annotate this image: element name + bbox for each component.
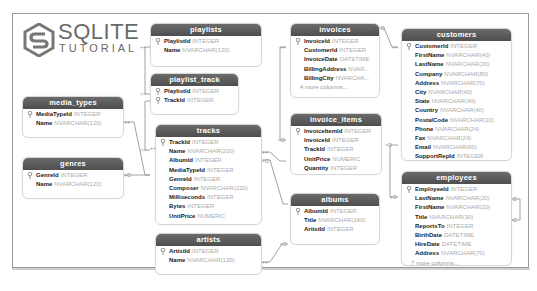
table-tracks[interactable]: tracks TrackIdINTEGER NameNVARCHAR(200) … xyxy=(155,124,262,225)
column-row: BillingAddressNVAR... xyxy=(297,65,375,74)
svg-text:<O: <O xyxy=(385,142,392,148)
svg-text:++: ++ xyxy=(262,149,268,155)
column-row: PlaylistIdINTEGER xyxy=(157,87,234,96)
column-row: CustomerIdINTEGER xyxy=(408,42,507,51)
svg-text:++: ++ xyxy=(392,44,398,50)
primary-key-icon xyxy=(160,248,166,255)
primary-key-icon xyxy=(160,139,166,146)
svg-text:+O: +O xyxy=(124,172,131,178)
column-row: TitleNVARCHAR(30) xyxy=(408,213,507,222)
column-row: PostalCodeNVARCHAR(10) xyxy=(408,116,507,125)
column-row: InvoiceIdINTEGER xyxy=(297,37,375,46)
primary-key-icon xyxy=(295,38,301,45)
column-row: BytesINTEGER xyxy=(162,202,257,211)
svg-text:<O: <O xyxy=(262,158,269,164)
column-row: LastNameNVARCHAR(20) xyxy=(408,194,507,203)
table-title: playlist_track xyxy=(151,74,238,86)
column-row: NameNVARCHAR(120) xyxy=(29,119,119,128)
column-row: NameNVARCHAR(120) xyxy=(29,180,119,189)
primary-key-icon xyxy=(406,186,412,193)
column-row: FirstNameNVARCHAR(40) xyxy=(408,51,507,60)
column-row: AlbumIdINTEGER xyxy=(162,156,257,165)
column-row: QuantityINTEGER xyxy=(297,164,377,173)
table-title: playlists xyxy=(151,24,261,36)
column-row: EmployeeIdINTEGER xyxy=(408,185,507,194)
primary-key-icon xyxy=(295,128,301,135)
more-columns-link[interactable]: 7 more columns... xyxy=(408,259,507,268)
svg-text:+O: +O xyxy=(390,194,397,200)
column-row: CountryNVARCHAR(40) xyxy=(408,106,507,115)
column-row: InvoiceDateDATETIME xyxy=(297,55,375,64)
svg-text:<O: <O xyxy=(278,137,285,143)
column-row: NameNVARCHAR(200) xyxy=(162,147,257,156)
column-row: AlbumIdINTEGER xyxy=(297,207,375,216)
svg-text:++: ++ xyxy=(140,44,146,50)
more-columns-link[interactable]: 4 more columns... xyxy=(297,83,375,92)
table-title: invoice_items xyxy=(291,114,381,126)
table-artists[interactable]: artists ArtistIdINTEGER NameNVARCHAR(120… xyxy=(155,233,262,275)
table-invoices[interactable]: invoices InvoiceIdINTEGER CustomerIdINTE… xyxy=(290,23,380,98)
column-row: BirthDateDATETIME xyxy=(408,231,507,240)
column-row: EmailNVARCHAR(60) xyxy=(408,143,507,152)
table-customers[interactable]: customers CustomerIdINTEGER FirstNameNVA… xyxy=(401,28,512,161)
table-title: invoices xyxy=(291,24,379,36)
column-row: AddressNVARCHAR(70) xyxy=(408,79,507,88)
table-title: customers xyxy=(402,29,511,41)
column-row: TrackIdINTEGER xyxy=(162,138,257,147)
column-row: LastNameNVARCHAR(20) xyxy=(408,60,507,69)
column-row: PlaylistIdINTEGER xyxy=(157,37,257,46)
column-row: MillisecondsINTEGER xyxy=(162,193,257,202)
column-row: ArtistIdINTEGER xyxy=(162,247,257,256)
table-title: media_types xyxy=(23,97,123,109)
column-row: GenreIdINTEGER xyxy=(29,171,119,180)
column-row: MediaTypeIdINTEGER xyxy=(162,166,257,175)
svg-text:++: ++ xyxy=(124,119,130,125)
column-row: PhoneNVARCHAR(24) xyxy=(408,125,507,134)
svg-text:++: ++ xyxy=(262,259,268,265)
column-row: ArtistIdINTEGER xyxy=(297,225,375,234)
table-playlist-track[interactable]: playlist_track PlaylistIdINTEGER TrackId… xyxy=(150,73,239,115)
svg-text:<O: <O xyxy=(280,241,287,247)
column-row: CityNVARCHAR(40) xyxy=(408,88,507,97)
column-row: NameNVARCHAR(120) xyxy=(157,46,257,55)
table-title: albums xyxy=(291,194,379,206)
table-media-types[interactable]: media_types MediaTypeIdINTEGER NameNVARC… xyxy=(22,96,124,138)
svg-text:<>: <> xyxy=(140,91,146,97)
column-row: FaxNVARCHAR(24) xyxy=(408,134,507,143)
primary-key-icon xyxy=(27,111,33,118)
column-row: SupportRepIdINTEGER xyxy=(408,152,507,161)
table-title: tracks xyxy=(156,125,261,137)
primary-key-icon xyxy=(155,38,161,45)
table-title: genres xyxy=(23,158,123,170)
column-row: TitleNVARCHAR(160) xyxy=(297,216,375,225)
table-playlists[interactable]: playlists PlaylistIdINTEGER NameNVARCHAR… xyxy=(150,23,262,67)
column-row: HireDateDATETIME xyxy=(408,240,507,249)
primary-key-icon xyxy=(295,208,301,215)
table-genres[interactable]: genres GenreIdINTEGER NameNVARCHAR(120) xyxy=(22,157,124,199)
primary-key-icon xyxy=(155,88,161,95)
table-invoice-items[interactable]: invoice_items InvoiceItemIdINTEGER Invoi… xyxy=(290,113,382,175)
column-row: UnitPriceNUMERIC xyxy=(162,212,257,221)
column-row: GenreIdINTEGER xyxy=(162,175,257,184)
column-row: InvoiceIdINTEGER xyxy=(297,136,377,145)
column-row: NameNVARCHAR(120) xyxy=(162,256,257,265)
column-row: ComposerNVARCHAR(220) xyxy=(162,184,257,193)
table-title: employees xyxy=(402,172,511,184)
table-albums[interactable]: albums AlbumIdINTEGER TitleNVARCHAR(160)… xyxy=(290,193,380,245)
column-row: FirstNameNVARCHAR(20) xyxy=(408,203,507,212)
table-title: artists xyxy=(156,234,261,246)
column-row: CustomerIdINTEGER xyxy=(297,46,375,55)
table-employees[interactable]: employees EmployeeIdINTEGER LastNameNVAR… xyxy=(401,171,512,266)
column-row: StateNVARCHAR(40) xyxy=(408,97,507,106)
column-row: AddressNVARCHAR(70) xyxy=(408,249,507,258)
svg-text:<>: <> xyxy=(140,147,146,153)
svg-text:++: ++ xyxy=(280,44,286,50)
primary-key-icon xyxy=(27,172,33,179)
column-row: TrackIdINTEGER xyxy=(297,145,377,154)
column-row: InvoiceItemIdINTEGER xyxy=(297,127,377,136)
primary-key-icon xyxy=(155,97,161,104)
column-row: BillingCityNVARCHA... xyxy=(297,74,375,83)
primary-key-icon xyxy=(406,43,412,50)
column-row: CompanyNVARCHAR(80) xyxy=(408,70,507,79)
column-row: MediaTypeIdINTEGER xyxy=(29,110,119,119)
